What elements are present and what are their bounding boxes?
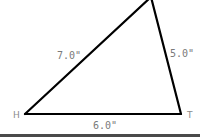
side-h-apex: [25, 0, 151, 114]
side-label-h-t: 6.0": [93, 120, 117, 131]
triangle-diagram: H T 7.0" 5.0" 6.0": [0, 0, 200, 137]
side-label-apex-t: 5.0": [170, 48, 194, 59]
vertex-label-h: H: [13, 110, 20, 120]
vertex-label-t: T: [186, 110, 193, 120]
bottom-border: [0, 134, 200, 137]
side-label-h-apex: 7.0": [57, 50, 81, 61]
